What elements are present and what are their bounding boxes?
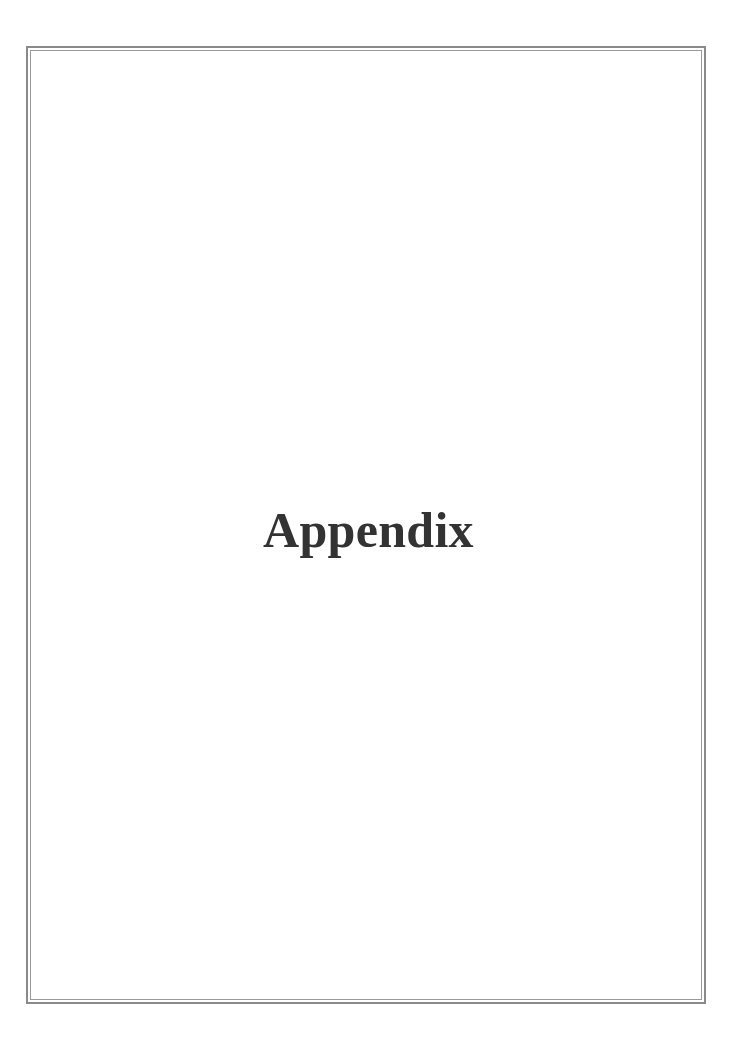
page-title: Appendix [0, 500, 737, 560]
